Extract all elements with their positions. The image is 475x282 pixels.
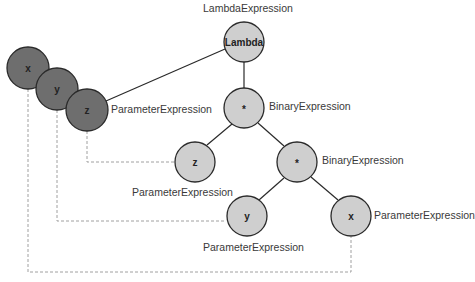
- z-ref-label: ParameterExpression: [132, 186, 233, 198]
- z-ref-text: z: [193, 157, 198, 168]
- x-ref-text: x: [348, 211, 354, 222]
- multiply-1-text: *: [242, 104, 246, 115]
- param-y-text: y: [54, 84, 60, 95]
- edge-mul1-z: [207, 124, 232, 145]
- param-x-text: x: [25, 63, 31, 74]
- param-z-text: z: [85, 105, 90, 116]
- lambda-label: LambdaExpression: [203, 2, 293, 14]
- y-ref-label: ParameterExpression: [203, 241, 304, 253]
- edge-lambda-params: [106, 49, 225, 101]
- edge-mul2-x: [311, 177, 338, 200]
- ref-line-z: [87, 131, 174, 162]
- multiply-2-text: *: [295, 158, 299, 169]
- x-ref-label: ParameterExpression: [374, 209, 475, 221]
- lambda-text: Lambda: [225, 37, 263, 48]
- edge-mul2-y: [259, 178, 284, 200]
- y-ref-text: y: [244, 211, 250, 222]
- param-z-label: ParameterExpression: [111, 103, 212, 115]
- binary-2-label: BinaryExpression: [322, 154, 404, 166]
- binary-1-label: BinaryExpression: [269, 100, 351, 112]
- edge-mul1-mul2: [258, 123, 284, 146]
